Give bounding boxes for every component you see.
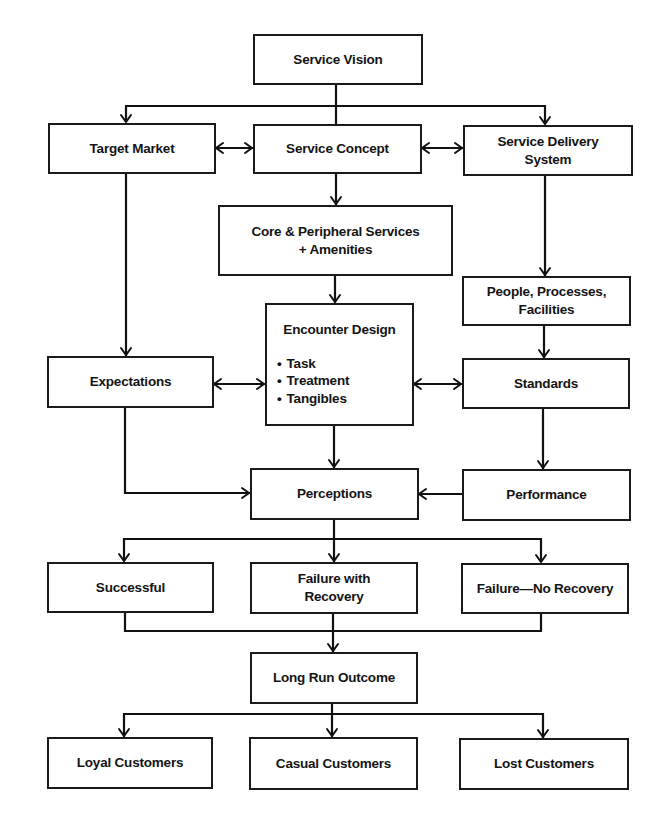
node-successful: Successful [47,562,214,613]
node-failure-with-recovery: Failure with Recovery [250,562,418,614]
node-standards: Standards [462,358,630,409]
node-label: Long Run Outcome [273,669,395,687]
node-label: Performance [506,486,586,504]
node-label: Service Delivery [497,133,598,151]
node-label: Target Market [90,140,175,158]
node-label: + Amenities [299,241,372,259]
bullet-item: Tangibles [277,390,349,408]
node-service-concept: Service Concept [253,124,422,174]
node-label: System [525,151,572,169]
service-model-flowchart: Service Vision Target Market Service Con… [0,0,666,822]
node-target-market: Target Market [48,123,216,174]
node-label: Failure with [298,570,371,588]
node-label: Perceptions [297,485,372,503]
node-label: Recovery [304,588,363,606]
node-service-vision: Service Vision [253,34,423,85]
node-label: Lost Customers [494,755,594,773]
node-label: Service Concept [286,140,389,158]
node-label: Standards [514,375,578,393]
node-failure-no-recovery: Failure—No Recovery [461,563,629,614]
node-label: Casual Customers [276,755,391,773]
node-label: Failure—No Recovery [477,580,614,598]
connector-expectations-perceptions [125,408,249,493]
node-label: Service Vision [293,51,382,69]
node-performance: Performance [462,469,631,521]
node-label: Successful [96,579,165,597]
node-service-delivery-system: Service Delivery System [463,125,633,176]
node-label: Loyal Customers [77,754,184,772]
node-encounter-design: Encounter Design Task Treatment Tangible… [265,303,414,426]
node-label: People, Processes, [487,283,606,301]
node-label: Expectations [90,373,172,391]
node-expectations: Expectations [47,356,214,408]
node-casual-customers: Casual Customers [249,737,418,790]
node-label: Facilities [519,301,575,319]
bullet-item: Task [277,355,349,373]
node-long-run-outcome: Long Run Outcome [250,652,418,704]
node-people-processes-facilities: People, Processes, Facilities [462,276,631,326]
node-lost-customers: Lost Customers [459,738,629,790]
node-core-peripheral-services: Core & Peripheral Services + Amenities [218,205,453,276]
node-label: Core & Peripheral Services [251,223,419,241]
node-perceptions: Perceptions [250,468,419,520]
bullet-item: Treatment [277,372,349,390]
encounter-bullet-list: Task Treatment Tangibles [277,355,349,408]
node-loyal-customers: Loyal Customers [47,737,213,789]
node-title: Encounter Design [283,321,395,339]
